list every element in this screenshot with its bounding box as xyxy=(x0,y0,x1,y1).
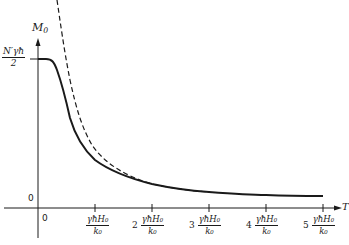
tick-multiplier: 5 xyxy=(303,220,309,230)
tick-denominator: k₀ xyxy=(205,226,214,236)
plateau-numerator: N′γħ xyxy=(2,47,25,58)
plateau-denominator: 2 xyxy=(11,58,17,68)
tick-numerator: γħH₀ xyxy=(198,215,221,226)
x-tick-label-4: 4 γħH₀ k₀ xyxy=(246,215,278,235)
tick-numerator: γħH₀ xyxy=(86,215,109,226)
y-axis-label: M0 xyxy=(32,22,48,35)
tick-numerator: γħH₀ xyxy=(255,215,278,226)
x-tick-label-1: γħH₀ k₀ xyxy=(83,215,109,235)
y-origin-label: 0 xyxy=(28,194,34,203)
tick-multiplier: 2 xyxy=(132,220,138,230)
x-axis-arrow-icon xyxy=(334,206,342,211)
x-tick-label-2: 2 γħH₀ k₀ xyxy=(132,215,164,235)
y-axis-label-sub: 0 xyxy=(43,26,48,35)
x-origin-label: 0 xyxy=(42,214,48,223)
tick-denominator: k₀ xyxy=(262,226,271,236)
x-tick-label-5: 5 γħH₀ k₀ xyxy=(303,215,335,235)
x-tick-label-3: 3 γħH₀ k₀ xyxy=(189,215,221,235)
tick-multiplier: 3 xyxy=(189,220,195,230)
y-axis-label-main: M xyxy=(32,21,43,34)
tick-denominator: k₀ xyxy=(93,226,102,236)
plot-canvas xyxy=(0,0,349,245)
tick-denominator: k₀ xyxy=(148,226,157,236)
y-axis-arrow-icon xyxy=(36,38,41,46)
plateau-label: N′γħ 2 xyxy=(2,47,25,68)
x-axis-label: T xyxy=(342,202,349,212)
dashed-curie-curve xyxy=(57,0,209,192)
tick-numerator: γħH₀ xyxy=(312,215,335,226)
solid-magnetization-curve xyxy=(38,59,323,196)
tick-numerator: γħH₀ xyxy=(141,215,164,226)
tick-denominator: k₀ xyxy=(319,226,328,236)
tick-multiplier: 4 xyxy=(246,220,252,230)
